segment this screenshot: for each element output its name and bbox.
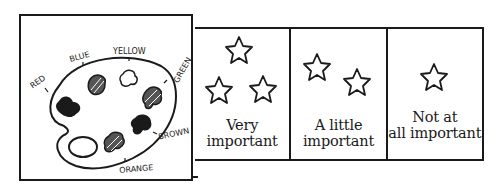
green-paint-blob <box>143 87 162 108</box>
orange-paint-blob <box>104 132 124 151</box>
three-stars-icon <box>195 29 290 109</box>
option-a-little-important[interactable]: A little important <box>289 29 385 159</box>
yellow-paint-blob <box>120 70 137 86</box>
red-paint-blob <box>56 97 80 117</box>
palette-icon: RED BLUE YELLOW GREEN BROWN ORANGE <box>21 16 193 181</box>
importance-scale: Very important A little important Not at… <box>195 27 484 161</box>
one-star-icon <box>388 29 483 109</box>
option-not-at-all-important[interactable]: Not at all important <box>386 29 482 159</box>
blue-paint-blob <box>88 75 105 94</box>
label-blue: BLUE <box>68 50 90 64</box>
label-yellow: YELLOW <box>112 47 146 56</box>
two-stars-icon <box>291 29 386 109</box>
option-label: A little important <box>291 117 385 149</box>
option-label: Not at all important <box>388 109 482 141</box>
option-very-important[interactable]: Very important <box>195 29 289 159</box>
connector-line <box>193 176 198 178</box>
label-green: GREEN <box>172 56 193 85</box>
label-orange: ORANGE <box>119 163 154 175</box>
option-label: Very important <box>195 117 289 149</box>
palette-illustration-box: RED BLUE YELLOW GREEN BROWN ORANGE <box>19 14 193 181</box>
brown-paint-blob <box>131 115 152 135</box>
label-brown: BROWN <box>158 126 190 141</box>
label-red: RED <box>28 73 47 90</box>
